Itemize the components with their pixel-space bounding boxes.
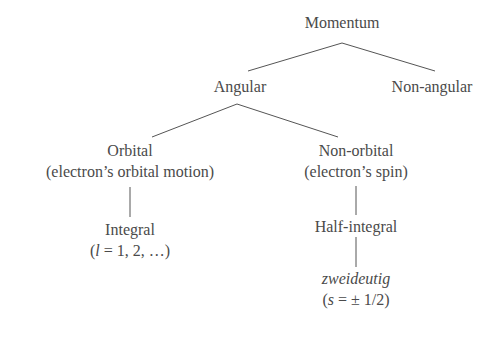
node-label: Angular — [214, 76, 266, 97]
node-non-angular: Non-angular — [392, 76, 473, 97]
node-formula: (s = ± 1/2) — [322, 289, 390, 310]
node-label: Orbital — [46, 140, 214, 161]
node-half-integral: Half-integral — [315, 216, 398, 237]
node-sublabel: (electron’s spin) — [304, 161, 408, 182]
node-formula: (l = 1, 2, …) — [90, 240, 170, 261]
node-momentum: Momentum — [305, 12, 380, 33]
node-label: Momentum — [305, 12, 380, 33]
edge-angular-orbital — [152, 104, 237, 137]
node-sublabel: (electron’s orbital motion) — [46, 161, 214, 182]
node-orbital: Orbital (electron’s orbital motion) — [46, 140, 214, 182]
edge-momentum-angular — [248, 43, 342, 71]
node-label: Non-angular — [392, 76, 473, 97]
edge-angular-non-orbital — [237, 104, 338, 137]
node-non-orbital: Non-orbital (electron’s spin) — [304, 140, 408, 182]
node-label: Integral — [90, 219, 170, 240]
node-zweideutig: zweideutig (s = ± 1/2) — [322, 268, 390, 310]
node-integral: Integral (l = 1, 2, …) — [90, 219, 170, 261]
formula-values: = 1, 2, …) — [100, 242, 170, 259]
formula-values: = ± 1/2) — [334, 291, 390, 308]
node-label: Non-orbital — [304, 140, 408, 161]
node-label: Half-integral — [315, 216, 398, 237]
node-label: zweideutig — [322, 268, 390, 289]
edge-momentum-non-angular — [342, 43, 435, 71]
node-angular: Angular — [214, 76, 266, 97]
